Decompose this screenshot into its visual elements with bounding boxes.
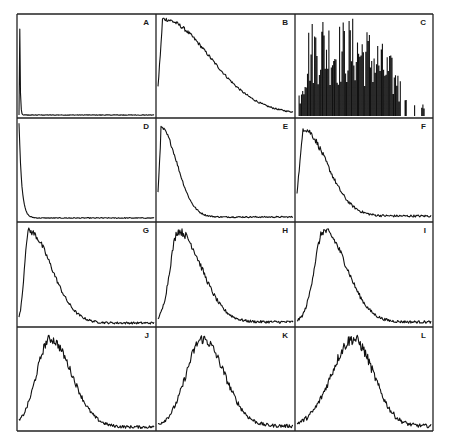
histogram-trace-k: [158, 336, 293, 428]
histogram-trace-h: [158, 229, 293, 324]
histogram-trace-a: [19, 29, 154, 115]
histogram-trace-e: [158, 126, 293, 217]
panel-label-f: F: [421, 122, 426, 131]
panel-label-d: D: [143, 122, 149, 131]
histogram-trace-i: [297, 229, 431, 323]
histogram-trace-l: [297, 335, 431, 428]
histogram-trace-g: [19, 228, 154, 324]
histogram-trace-c: [299, 19, 429, 116]
panel-label-i: I: [424, 226, 426, 235]
panel-label-l: L: [421, 331, 426, 340]
panel-label-e: E: [283, 122, 289, 131]
panel-label-g: G: [143, 226, 149, 235]
panel-label-h: H: [282, 226, 288, 235]
histogram-traces: [19, 18, 431, 428]
histogram-trace-j: [19, 335, 154, 428]
histogram-trace-b: [158, 18, 293, 112]
panel-label-j: J: [145, 331, 149, 340]
panel-labels: ABCDEFGHIJKL: [143, 18, 426, 340]
histogram-grid-figure: ABCDEFGHIJKL: [0, 0, 449, 445]
panel-label-c: C: [420, 18, 426, 27]
histogram-trace-d: [19, 123, 154, 218]
panel-label-k: K: [282, 331, 288, 340]
panel-label-a: A: [143, 18, 149, 27]
histogram-trace-f: [297, 129, 431, 217]
panel-label-b: B: [282, 18, 288, 27]
